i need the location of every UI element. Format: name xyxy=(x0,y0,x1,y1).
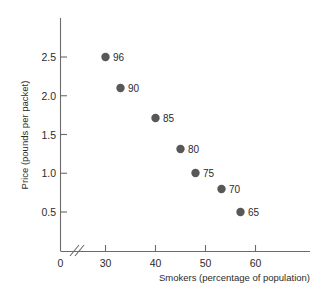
data-points-group: 96 90 85 80 75 70 xyxy=(101,52,259,218)
x-tick-label-30: 30 xyxy=(100,257,112,269)
point-marker[interactable] xyxy=(101,53,109,61)
data-point-90[interactable]: 90 xyxy=(116,83,139,94)
point-marker[interactable] xyxy=(116,84,124,92)
point-marker[interactable] xyxy=(191,169,199,177)
point-label: 85 xyxy=(163,113,175,124)
y-tick-label-1.0: 1.0 xyxy=(41,167,56,179)
data-point-96[interactable]: 96 xyxy=(101,52,124,63)
y-tick-label-0.5: 0.5 xyxy=(41,206,56,218)
y-axis-ticks xyxy=(61,57,68,212)
x-tick-label-0: 0 xyxy=(58,257,64,269)
data-point-65[interactable]: 65 xyxy=(236,207,259,218)
scatter-plot-figure: 2.5 2.0 1.5 1.0 0.5 0 30 40 50 60 Smoker… xyxy=(0,0,326,292)
point-label: 96 xyxy=(113,52,125,63)
point-label: 65 xyxy=(248,207,260,218)
x-axis-title: Smokers (percentage of population) xyxy=(159,272,310,283)
data-point-75[interactable]: 75 xyxy=(191,168,214,179)
x-tick-label-50: 50 xyxy=(200,257,212,269)
x-tick-label-40: 40 xyxy=(150,257,162,269)
point-marker[interactable] xyxy=(236,208,244,216)
point-marker[interactable] xyxy=(176,145,184,153)
point-label: 70 xyxy=(229,184,241,195)
point-label: 80 xyxy=(188,144,200,155)
y-tick-label-1.5: 1.5 xyxy=(41,129,56,141)
x-tick-label-60: 60 xyxy=(250,257,262,269)
x-axis-break-icon xyxy=(70,245,84,256)
point-marker[interactable] xyxy=(217,185,225,193)
point-marker[interactable] xyxy=(151,114,159,122)
y-axis-title: Price (pounds per packet) xyxy=(19,81,30,190)
point-label: 75 xyxy=(203,168,215,179)
plot-canvas: 2.5 2.0 1.5 1.0 0.5 0 30 40 50 60 Smoker… xyxy=(0,0,326,292)
y-tick-label-2.0: 2.0 xyxy=(41,90,56,102)
y-tick-label-2.5: 2.5 xyxy=(41,51,56,63)
data-point-80[interactable]: 80 xyxy=(176,144,199,155)
point-label: 90 xyxy=(128,83,140,94)
data-point-85[interactable]: 85 xyxy=(151,113,174,124)
x-axis-ticks xyxy=(106,245,256,252)
data-point-70[interactable]: 70 xyxy=(217,184,240,195)
